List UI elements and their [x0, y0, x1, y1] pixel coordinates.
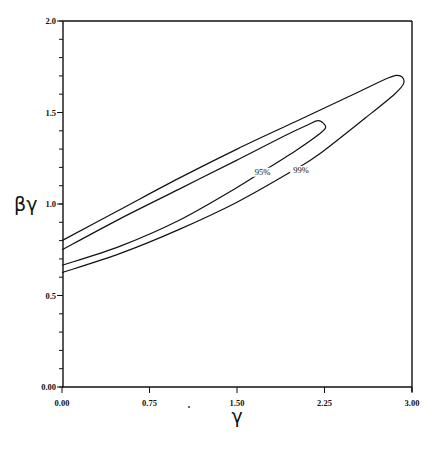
x-axis-label: γ [231, 405, 242, 427]
x-tick-label: 2.25 [317, 398, 332, 408]
contours: 95%99% [62, 75, 404, 272]
y-tick-label: 0.5 [45, 291, 56, 301]
contour-95-percent [62, 121, 326, 266]
contour-99-percent [62, 75, 404, 272]
contour-label-99: 99% [293, 165, 309, 175]
y-tick-label: 1.5 [45, 108, 56, 118]
x-tick-label: 3.00 [405, 398, 420, 408]
y-axis-label: βγ [14, 193, 37, 215]
plot-frame [62, 21, 412, 387]
y-tick-label: 0.00 [41, 382, 56, 392]
stray-dot [188, 406, 190, 408]
chart: 0.000.751.502.253.00 0.000.51.01.52.0 95… [0, 0, 432, 452]
x-tick-label: 0.00 [55, 398, 70, 408]
contour-label-95: 95% [255, 167, 271, 177]
x-tick-label: 0.75 [142, 398, 157, 408]
axes [62, 21, 412, 392]
y-tick-label: 1.0 [45, 199, 56, 209]
y-ticks: 0.000.51.01.52.0 [41, 16, 63, 392]
y-tick-label: 2.0 [45, 16, 56, 26]
